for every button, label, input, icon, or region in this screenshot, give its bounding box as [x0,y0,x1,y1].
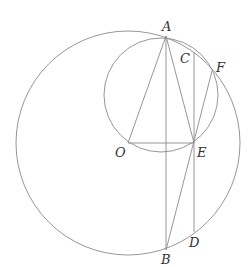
small-circle [104,38,218,152]
label-C: C [180,51,190,66]
label-E: E [196,145,207,160]
label-D: D [188,235,200,250]
segment-FB [166,71,212,250]
label-F: F [215,60,226,75]
diagram-svg: A C F O E D B [0,0,248,267]
segment-OA [128,36,166,143]
label-A: A [161,19,171,34]
geometry-diagram: A C F O E D B [0,0,248,267]
label-B: B [160,252,171,267]
label-O: O [115,145,126,160]
